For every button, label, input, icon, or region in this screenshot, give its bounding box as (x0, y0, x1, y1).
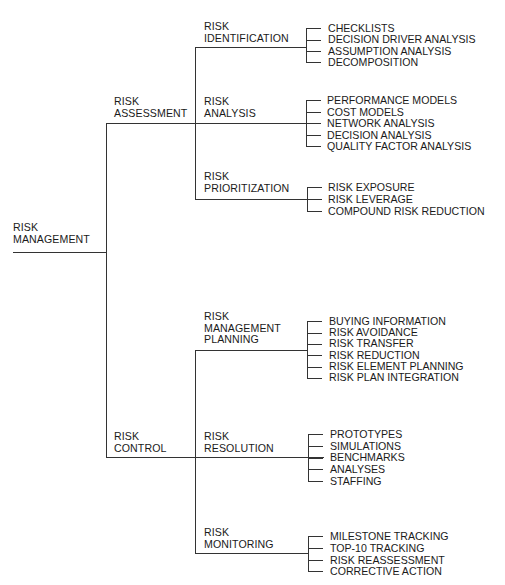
leaf-item: RISK LEVERAGE (328, 194, 413, 206)
subnode-label-line2: MONITORING (204, 539, 274, 551)
leaf-item: RISK TRANSFER (329, 338, 414, 350)
subnode-label-line1: RISK (204, 171, 289, 183)
planning-bracket (307, 321, 308, 379)
bracket-tick (308, 458, 323, 459)
leaf-item: RISK EXPOSURE (328, 182, 415, 194)
subnode-risk-prioritization: RISK PRIORITIZATION (204, 171, 289, 194)
subnode-risk-monitoring: RISK MONITORING (204, 527, 274, 550)
leaf-item: BENCHMARKS (330, 452, 405, 464)
risk-management-tree-diagram: RISK MANAGEMENT RISK ASSESSMENT RISK CON… (0, 0, 505, 585)
bracket-tick (306, 112, 321, 113)
subnode-risk-analysis: RISK ANALYSIS (204, 96, 256, 119)
subnode-label-line1: RISK (204, 311, 281, 323)
subnode-label-line1: RISK (204, 96, 256, 108)
leaf-item: CORRECTIVE ACTION (330, 566, 442, 578)
leaf-item: ANALYSES (330, 464, 385, 476)
bracket-tick (307, 199, 322, 200)
bracket-tick (308, 571, 323, 572)
analysis-connector (195, 123, 307, 124)
leaf-item: STAFFING (330, 476, 382, 488)
leaf-item: COMPOUND RISK REDUCTION (328, 206, 485, 218)
identification-connector (195, 47, 307, 48)
bracket-tick (307, 321, 322, 322)
branch-label-line2: CONTROL (114, 443, 167, 455)
bracket-tick (307, 367, 322, 368)
bracket-tick (308, 548, 323, 549)
assessment-connector (106, 123, 196, 124)
bracket-tick (306, 40, 321, 41)
bracket-tick (308, 434, 323, 435)
subnode-label-line2: PRIORITIZATION (204, 183, 289, 195)
bracket-tick (307, 187, 322, 188)
branch-label-line2: ASSESSMENT (114, 108, 187, 120)
subnode-label-line3: PLANNING (204, 334, 281, 346)
branch-node-risk-assessment: RISK ASSESSMENT (114, 96, 187, 119)
monitoring-bracket (308, 536, 309, 572)
leaf-item: MILESTONE TRACKING (330, 531, 449, 543)
subnode-label-line1: RISK (204, 527, 274, 539)
control-connector (106, 457, 196, 458)
prioritization-connector (195, 199, 307, 200)
bracket-tick (307, 211, 322, 212)
bracket-tick (306, 146, 321, 147)
root-node-risk-management: RISK MANAGEMENT (13, 222, 90, 245)
leaf-item: DECOMPOSITION (328, 57, 418, 69)
level1-spine-connector (106, 123, 107, 458)
bracket-tick (307, 333, 322, 334)
bracket-tick (306, 123, 321, 124)
bracket-tick (307, 344, 322, 345)
root-underline-connector (13, 252, 107, 253)
bracket-tick (308, 536, 323, 537)
identification-bracket (306, 28, 307, 63)
leaf-item: PROTOTYPES (330, 429, 402, 441)
subnode-label-line2: IDENTIFICATION (204, 33, 289, 45)
bracket-tick (308, 481, 323, 482)
root-label-line1: RISK (13, 222, 90, 234)
bracket-tick (307, 378, 322, 379)
leaf-item: DECISION DRIVER ANALYSIS (328, 34, 476, 46)
bracket-tick (306, 28, 321, 29)
bracket-tick (307, 355, 322, 356)
leaf-item: QUALITY FACTOR ANALYSIS (327, 141, 471, 153)
branch-label-line1: RISK (114, 431, 167, 443)
bracket-tick (306, 135, 321, 136)
subnode-label-line2: RESOLUTION (204, 443, 274, 455)
resolution-connector (195, 457, 324, 458)
bracket-tick (308, 560, 323, 561)
subnode-risk-resolution: RISK RESOLUTION (204, 431, 274, 454)
bracket-tick (308, 446, 323, 447)
bracket-tick (306, 100, 321, 101)
leaf-item: PERFORMANCE MODELS (327, 95, 457, 107)
monitoring-connector (195, 553, 309, 554)
root-label-line2: MANAGEMENT (13, 234, 90, 246)
planning-connector (195, 350, 308, 351)
subnode-risk-identification: RISK IDENTIFICATION (204, 21, 289, 44)
subnode-label-line2: ANALYSIS (204, 108, 256, 120)
subnode-label-line1: RISK (204, 431, 274, 443)
leaf-item: RISK PLAN INTEGRATION (329, 372, 459, 384)
leaf-item: TOP-10 TRACKING (330, 543, 424, 555)
bracket-tick (306, 62, 321, 63)
bracket-tick (306, 51, 321, 52)
leaf-item: NETWORK ANALYSIS (327, 118, 435, 130)
control-spine-connector (195, 350, 196, 554)
subnode-risk-management-planning: RISK MANAGEMENT PLANNING (204, 311, 281, 346)
subnode-label-line1: RISK (204, 21, 289, 33)
branch-label-line1: RISK (114, 96, 187, 108)
bracket-tick (308, 469, 323, 470)
branch-node-risk-control: RISK CONTROL (114, 431, 167, 454)
